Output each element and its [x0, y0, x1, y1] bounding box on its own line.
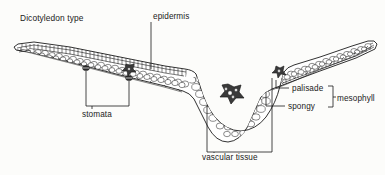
vascular-bundle-midrib	[220, 84, 244, 104]
figure-title: Dicotyledon type	[20, 14, 84, 22]
label-epidermis: epidermis	[153, 13, 189, 21]
stoma-1	[83, 65, 90, 70]
label-spongy: spongy	[288, 103, 315, 111]
bracket-mesophyll	[328, 86, 336, 107]
label-palisade: palisade	[292, 85, 323, 93]
stoma-2	[126, 75, 133, 80]
leaf-diagram-svg	[0, 0, 385, 175]
leaf-cross-section-figure: Dicotyledon type epidermis stomata vascu…	[0, 0, 385, 175]
label-stomata: stomata	[82, 111, 112, 119]
label-mesophyll: mesophyll	[337, 95, 375, 103]
label-vascular-tissue: vascular tissue	[202, 154, 258, 162]
